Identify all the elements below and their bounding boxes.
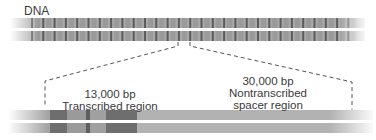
spacer-size-label: 30,000 bp: [218, 75, 318, 87]
spacer-label-line2: spacer region: [208, 99, 328, 111]
top-dna-strands: [10, 16, 368, 44]
transcribed-region-label: Transcribed region: [50, 100, 170, 112]
expanded-rdna-unit: [8, 108, 376, 135]
dna-diagram: [0, 0, 376, 140]
transcribed-size-label: 13,000 bp: [55, 88, 165, 100]
spacer-label-line1: Nontranscribed: [208, 87, 328, 99]
